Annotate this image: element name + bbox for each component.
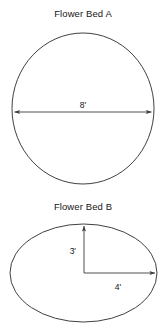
flower-bed-b-group: 3' 4' [10,224,157,322]
semi-minor-axis-label: 3' [70,246,77,256]
semi-major-axis-label: 4' [115,282,122,292]
figure-canvas: 8' 3' 4' [0,0,166,332]
flower-beds-figure: Flower Bed A Flower Bed B 8' 3' 4' [0,0,166,332]
diameter-label: 8' [80,100,87,110]
flower-bed-a-group: 8' [12,33,154,184]
